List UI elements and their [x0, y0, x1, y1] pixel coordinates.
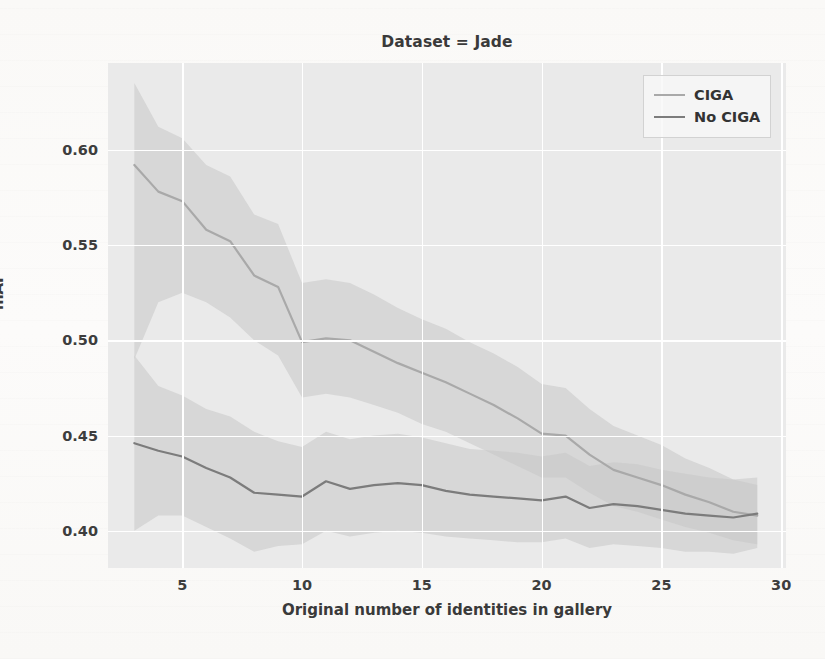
gridline-vertical: [661, 63, 662, 568]
gridline-horizontal: [108, 531, 786, 532]
gridline-horizontal: [108, 340, 786, 341]
y-tick-label: 0.50: [38, 332, 98, 348]
gridline-vertical: [302, 63, 303, 568]
y-tick-label: 0.55: [38, 237, 98, 253]
x-tick-label: 20: [517, 577, 567, 593]
gridline-horizontal: [108, 245, 786, 246]
chart-figure: Dataset = Jade 0.400.450.500.550.60 5101…: [0, 0, 825, 659]
legend-line-swatch: [654, 116, 685, 118]
y-tick-label: 0.60: [38, 142, 98, 158]
plot-svg: [108, 63, 786, 568]
legend-item-ciga[interactable]: CIGA: [654, 84, 760, 106]
legend-label: No CIGA: [694, 109, 760, 125]
y-axis-label: mAP: [0, 272, 7, 310]
y-tick-label: 0.45: [38, 428, 98, 444]
x-axis-label: Original number of identities in gallery: [108, 601, 786, 619]
gridline-horizontal: [108, 150, 786, 151]
x-tick-label: 25: [636, 577, 686, 593]
x-tick-label: 10: [277, 577, 327, 593]
plot-area: [108, 63, 786, 568]
y-tick-label: 0.40: [38, 523, 98, 539]
legend-label: CIGA: [694, 87, 733, 103]
x-tick-label: 15: [397, 577, 447, 593]
legend-line-swatch: [654, 94, 685, 96]
gridline-vertical: [182, 63, 183, 568]
legend-item-no-ciga[interactable]: No CIGA: [654, 106, 760, 128]
x-tick-label: 5: [157, 577, 207, 593]
x-tick-label: 30: [756, 577, 806, 593]
gridline-vertical: [781, 63, 782, 568]
chart-title: Dataset = Jade: [108, 33, 786, 51]
legend: CIGANo CIGA: [643, 75, 771, 138]
gridline-vertical: [422, 63, 423, 568]
gridline-horizontal: [108, 436, 786, 437]
gridline-vertical: [542, 63, 543, 568]
